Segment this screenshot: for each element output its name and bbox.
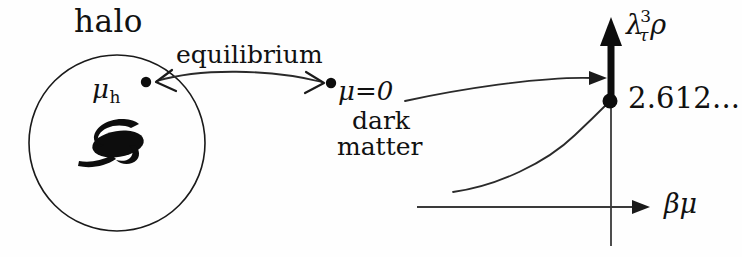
reservoir-matter-label: matter: [337, 134, 422, 159]
reservoir-pointer-curve: [405, 78, 594, 101]
spiral-galaxy-icon: [78, 119, 146, 167]
reservoir-particle-dot: [326, 78, 336, 88]
equilibrium-arrowhead-left: [156, 70, 176, 91]
halo-title-label: halo: [74, 6, 143, 37]
x-axis-label: βμ: [664, 190, 697, 217]
equilibrium-arrowhead-right: [305, 72, 324, 93]
critical-point-dot: [603, 94, 618, 109]
critical-value-label: 2.612...: [628, 84, 740, 113]
reservoir-pointer-arrowhead: [589, 71, 607, 85]
halo-particle-dot: [141, 77, 151, 87]
halo-chemical-potential-label: μh: [92, 76, 120, 106]
divergence-arrowhead: [600, 17, 622, 46]
lambda-subscript-tau: τ: [639, 25, 648, 45]
reservoir-dark-label: dark: [352, 108, 410, 133]
reservoir-condition-label: μ=0: [338, 78, 393, 104]
equilibrium-label: equilibrium: [176, 42, 323, 67]
mu-subscript-h: h: [109, 87, 120, 107]
y-axis-label: λ3τρ: [626, 8, 666, 44]
x-axis-arrowhead: [632, 200, 650, 214]
equilibrium-arrow-curve: [157, 72, 322, 82]
rho-symbol: ρ: [650, 9, 666, 40]
density-curve: [453, 102, 609, 192]
dark-matter-bose-condensation-figure: halo μh equilibrium μ=0 dark matter λ3τρ…: [0, 0, 742, 257]
mu-symbol: μ: [92, 74, 109, 104]
